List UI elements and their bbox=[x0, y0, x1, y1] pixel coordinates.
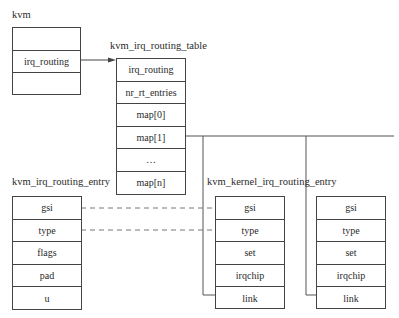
kernel-entry-struct-1: gsi type set irqchip link bbox=[215, 196, 285, 309]
kernel-entry-struct-2: gsi type set irqchip link bbox=[316, 196, 386, 309]
kvm-field-irq-routing: irq_routing bbox=[13, 51, 80, 74]
routing-entry-field: pad bbox=[13, 265, 81, 288]
routing-table-title: kvm_irq_routing_table bbox=[110, 40, 207, 51]
routing-entry-title: kvm_irq_routing_entry bbox=[12, 176, 110, 187]
kernel-entry-field: irqchip bbox=[317, 265, 385, 288]
kernel-entry-field: gsi bbox=[216, 197, 284, 220]
kernel-entry-field: type bbox=[216, 220, 284, 243]
routing-table-field: map[0] bbox=[117, 104, 185, 127]
kernel-entry-field: gsi bbox=[317, 197, 385, 220]
kernel-entry-field: set bbox=[317, 242, 385, 265]
routing-table-field: … bbox=[117, 149, 185, 172]
kernel-entry-field: link bbox=[216, 287, 284, 310]
link-line-1 bbox=[203, 136, 215, 295]
kvm-title: kvm bbox=[12, 9, 31, 20]
kvm-field bbox=[13, 73, 80, 96]
routing-table-field: irq_routing bbox=[117, 59, 185, 82]
routing-table-field: map[1] bbox=[117, 127, 185, 150]
kvm-field bbox=[13, 28, 80, 51]
routing-entry-field: flags bbox=[13, 242, 81, 265]
kernel-entry-field: set bbox=[216, 242, 284, 265]
routing-table-field: nr_rt_entries bbox=[117, 82, 185, 105]
routing-table-struct: irq_routing nr_rt_entries map[0] map[1] … bbox=[116, 58, 186, 195]
routing-entry-field: u bbox=[13, 287, 81, 310]
kernel-entry-field: link bbox=[317, 287, 385, 310]
arrowhead bbox=[108, 58, 116, 63]
kernel-entry-title: kvm_kernel_irq_routing_entry bbox=[207, 176, 336, 187]
kernel-entry-field: type bbox=[317, 220, 385, 243]
kvm-struct: irq_routing bbox=[12, 27, 81, 95]
link-line-2 bbox=[306, 136, 316, 295]
routing-entry-struct: gsi type flags pad u bbox=[12, 196, 82, 310]
kernel-entry-field: irqchip bbox=[216, 265, 284, 288]
routing-entry-field: gsi bbox=[13, 197, 81, 220]
routing-entry-field: type bbox=[13, 220, 81, 243]
routing-table-field: map[n] bbox=[117, 172, 185, 195]
